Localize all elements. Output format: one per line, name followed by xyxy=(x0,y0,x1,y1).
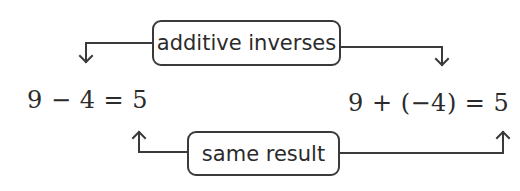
left-equation: 9 − 4 = 5 xyxy=(27,86,148,114)
bottom-left-connector xyxy=(139,132,188,152)
same-result-label: same result xyxy=(187,131,340,176)
diagram-canvas: additive inverses 9 − 4 = 5 9 + (−4) = 5… xyxy=(0,0,520,191)
same-result-text: same result xyxy=(202,142,325,166)
top-right-connector xyxy=(339,47,442,65)
bottom-right-connector xyxy=(339,132,503,153)
additive-inverses-text: additive inverses xyxy=(157,31,336,55)
top-left-connector xyxy=(86,43,153,62)
right-equation: 9 + (−4) = 5 xyxy=(348,89,509,117)
additive-inverses-label: additive inverses xyxy=(152,20,341,66)
